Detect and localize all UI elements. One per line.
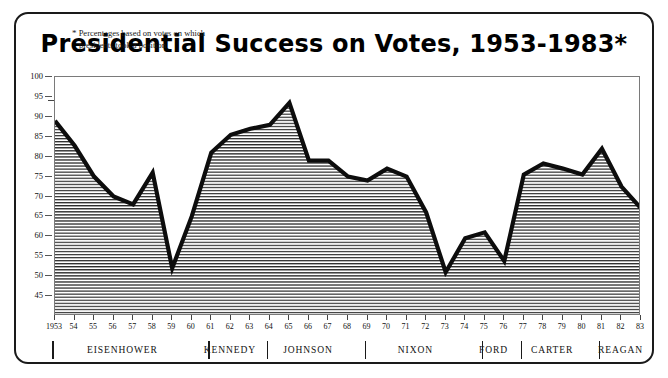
x-axis: 1953545556575859606162636465666768697071… (54, 315, 640, 337)
president-label: REAGAN (598, 344, 643, 356)
x-axis-tick-label: 71 (402, 323, 410, 331)
x-axis-tick-label: 63 (245, 323, 253, 331)
y-axis: 1009590858075706560555045 (16, 76, 52, 315)
x-axis-tick-mark (601, 315, 602, 320)
y-axis-tick-label: 75 (35, 171, 44, 180)
x-axis-tick-mark (464, 315, 465, 320)
x-axis-tick-mark (74, 315, 75, 320)
y-axis-tick-label: 50 (35, 271, 44, 280)
x-axis-tick-mark (367, 315, 368, 320)
x-axis-tick-label: 69 (363, 323, 371, 331)
x-axis-tick-label: 62 (226, 323, 234, 331)
x-axis-tick-mark (523, 315, 524, 320)
annotation-asterisk: * (72, 28, 77, 38)
x-axis-tick-mark (93, 315, 94, 320)
y-axis-tick-label: 90 (35, 112, 44, 121)
president-label: KENNEDY (204, 344, 256, 356)
y-axis-tick-mark (45, 196, 52, 197)
x-axis-tick-mark (132, 315, 133, 320)
area-fill (55, 103, 639, 314)
president-term-divider (599, 341, 601, 359)
y-axis-tick-mark (45, 255, 52, 256)
president-term-divider (521, 341, 523, 359)
y-axis-tick-mark (45, 96, 52, 97)
x-axis-tick-mark (640, 315, 641, 320)
president-term-divider (208, 341, 210, 359)
x-axis-tick-label: 82 (616, 323, 624, 331)
x-axis-tick-label: 60 (187, 323, 195, 331)
y-axis-tick-mark (45, 156, 52, 157)
x-axis-tick-label: 56 (109, 323, 117, 331)
x-axis-tick-label: 61 (206, 323, 214, 331)
x-axis-tick-label: 81 (597, 323, 605, 331)
x-axis-tick-mark (327, 315, 328, 320)
x-axis-tick-mark (581, 315, 582, 320)
x-axis-tick-label: 64 (265, 323, 273, 331)
x-axis-tick-label: 1953 (46, 323, 62, 331)
x-axis-tick-mark (230, 315, 231, 320)
x-axis-tick-label: 55 (89, 323, 97, 331)
x-axis-tick-label: 83 (636, 323, 644, 331)
y-axis-tick-mark (45, 116, 52, 117)
y-axis-tick-label: 70 (35, 191, 44, 200)
annotation-line-2: presidents took a position (72, 40, 287, 52)
x-axis-tick-mark (152, 315, 153, 320)
president-label: EISENHOWER (87, 344, 158, 356)
y-axis-tick-label: 55 (35, 251, 44, 260)
y-axis-tick-label: 45 (35, 291, 44, 300)
plot-area (54, 76, 640, 315)
x-axis-tick-label: 70 (382, 323, 390, 331)
x-axis-tick-label: 80 (577, 323, 585, 331)
x-axis-tick-mark (113, 315, 114, 320)
chart-figure: Presidential Success on Votes, 1953-1983… (14, 12, 654, 364)
x-axis-tick-label: 74 (460, 323, 468, 331)
x-axis-tick-mark (210, 315, 211, 320)
x-axis-tick-label: 73 (441, 323, 449, 331)
x-axis-tick-label: 72 (421, 323, 429, 331)
x-axis-tick-mark (620, 315, 621, 320)
x-axis-tick-mark (54, 315, 55, 320)
x-axis-tick-label: 68 (343, 323, 351, 331)
x-axis-tick-label: 59 (167, 323, 175, 331)
president-label: CARTER (531, 344, 573, 356)
y-axis-tick-mark (45, 215, 52, 216)
chart-annotation: * Percentages based on votes on which pr… (72, 28, 287, 51)
x-axis-tick-mark (425, 315, 426, 320)
x-axis-tick-mark (288, 315, 289, 320)
x-axis-tick-label: 75 (480, 323, 488, 331)
x-axis-tick-label: 76 (499, 323, 507, 331)
plot-inner (55, 77, 639, 314)
x-axis-tick-mark (347, 315, 348, 320)
president-term-divider (482, 341, 484, 359)
x-axis-tick-mark (386, 315, 387, 320)
y-axis-tick-label: 100 (30, 72, 43, 81)
x-axis-tick-mark (308, 315, 309, 320)
x-axis-tick-label: 67 (323, 323, 331, 331)
x-axis-tick-label: 77 (519, 323, 527, 331)
y-axis-tick-mark (45, 275, 52, 276)
x-axis-tick-mark (503, 315, 504, 320)
y-axis-tick-label: 60 (35, 231, 44, 240)
x-axis-tick-mark (269, 315, 270, 320)
y-axis-tick-label: 65 (35, 211, 44, 220)
x-axis-tick-label: 66 (304, 323, 312, 331)
y-axis-tick-label: 95 (35, 92, 44, 101)
x-axis-tick-mark (191, 315, 192, 320)
president-term-divider (52, 341, 54, 359)
x-axis-tick-label: 79 (558, 323, 566, 331)
x-axis-tick-mark (406, 315, 407, 320)
x-axis-tick-mark (542, 315, 543, 320)
y-axis-tick-label: 85 (35, 132, 44, 141)
x-axis-tick-label: 65 (284, 323, 292, 331)
x-axis-tick-mark (445, 315, 446, 320)
y-axis-tick-mark (45, 76, 52, 77)
president-label: NIXON (398, 344, 433, 356)
x-axis-tick-label: 57 (128, 323, 136, 331)
x-axis-tick-label: 54 (70, 323, 78, 331)
y-axis-tick-mark (45, 295, 52, 296)
x-axis-tick-mark (171, 315, 172, 320)
x-axis-tick-mark (562, 315, 563, 320)
annotation-line-1: Percentages based on votes on which (79, 28, 205, 38)
president-term-divider (365, 341, 367, 359)
y-axis-tick-mark (45, 176, 52, 177)
